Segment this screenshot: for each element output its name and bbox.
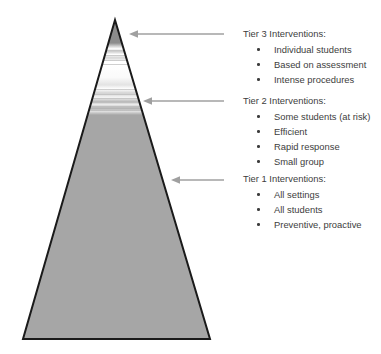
arrow-tier1-icon [170, 173, 226, 187]
bullet-icon [257, 208, 260, 211]
tier-3-list: Individual students Based on assessment … [243, 42, 381, 87]
list-item-label: Small group [274, 156, 324, 167]
arrow-tier2-icon [142, 94, 226, 108]
bullet-icon [257, 48, 260, 51]
list-item-label: Individual students [274, 44, 352, 55]
bullet-icon [257, 130, 260, 133]
tier-2-heading: Tier 2 Interventions: [243, 94, 381, 107]
list-item-label: Preventive, proactive [274, 219, 362, 230]
tier-1-heading: Tier 1 Interventions: [243, 172, 381, 185]
list-item: Individual students [243, 42, 381, 57]
tier-3-heading: Tier 3 Interventions: [243, 27, 381, 40]
diagram-canvas: Tier 3 Interventions: Individual student… [0, 0, 381, 354]
list-item: Efficient [243, 124, 381, 139]
list-item: All students [243, 202, 381, 217]
list-item: Preventive, proactive [243, 217, 381, 232]
list-item-label: Some students (at risk) [274, 111, 370, 122]
list-item: Based on assessment [243, 57, 381, 72]
bullet-icon [257, 223, 260, 226]
list-item-label: Intense procedures [274, 74, 354, 85]
bullet-icon [257, 115, 260, 118]
list-item-label: All students [274, 204, 322, 215]
list-item: All settings [243, 187, 381, 202]
bullet-icon [257, 160, 260, 163]
bullet-icon [257, 63, 260, 66]
list-item: Small group [243, 154, 381, 169]
tier-2-list: Some students (at risk) Efficient Rapid … [243, 109, 381, 169]
tier-1-list: All settings All students Preventive, pr… [243, 187, 381, 232]
list-item-label: Based on assessment [274, 59, 366, 70]
list-item-label: All settings [274, 189, 319, 200]
tier-3-text-block: Tier 3 Interventions: Individual student… [243, 27, 381, 87]
bullet-icon [257, 78, 260, 81]
tier-1-text-block: Tier 1 Interventions: All settings All s… [243, 172, 381, 232]
list-item: Intense procedures [243, 72, 381, 87]
tier-2-text-block: Tier 2 Interventions: Some students (at … [243, 94, 381, 169]
bullet-icon [257, 145, 260, 148]
list-item: Rapid response [243, 139, 381, 154]
bullet-icon [257, 193, 260, 196]
list-item-label: Efficient [274, 126, 307, 137]
arrow-tier3-icon [128, 27, 226, 41]
list-item: Some students (at risk) [243, 109, 381, 124]
list-item-label: Rapid response [274, 141, 340, 152]
